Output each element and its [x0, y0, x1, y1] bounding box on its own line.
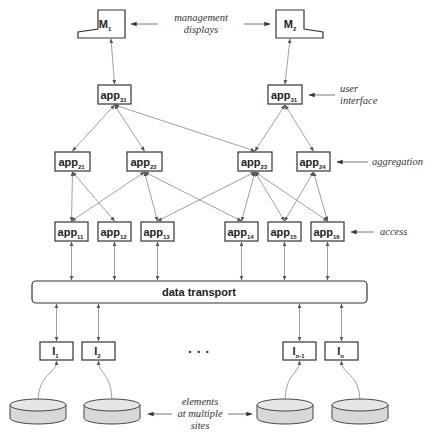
- node-label: app: [313, 226, 333, 238]
- svg-text:displays: displays: [184, 24, 218, 35]
- svg-text:access: access: [380, 226, 407, 237]
- node-i2[interactable]: I2: [82, 342, 115, 360]
- annotation-elements: elements at multiple sites: [148, 396, 252, 431]
- annotation-aggregation: aggregation: [337, 156, 423, 167]
- connection-app21-app11: [72, 172, 73, 221]
- node-subscript: 13: [163, 234, 170, 240]
- data-transport-label: data transport: [162, 286, 236, 298]
- node-label: app: [299, 156, 319, 168]
- node-subscript: 16: [333, 234, 340, 240]
- connection-app23-app15: [255, 172, 285, 221]
- node-in[interactable]: In: [325, 342, 358, 360]
- connection-app24-app15: [285, 172, 314, 221]
- network-element-disc[interactable]: [332, 399, 388, 424]
- node-label: app: [143, 226, 163, 238]
- node-i1[interactable]: I1: [40, 342, 73, 360]
- node-app31a[interactable]: app31: [98, 85, 131, 104]
- architecture-diagram: M1 M2 management displays app31app31app2…: [0, 0, 426, 439]
- connection-m1-app31a: [111, 39, 115, 84]
- node-subscript: 31: [120, 97, 127, 103]
- node-label: app: [241, 156, 261, 168]
- connection-app22-app14: [145, 172, 242, 221]
- network-element-disc[interactable]: [84, 399, 140, 424]
- annotation-management-displays: management displays: [131, 12, 270, 35]
- node-label: app: [270, 226, 290, 238]
- connection-app23-app13: [158, 172, 256, 221]
- svg-text:interface: interface: [340, 95, 378, 106]
- connection-in-element: [342, 361, 361, 403]
- node-app21[interactable]: app21: [55, 152, 90, 171]
- node-app23[interactable]: app23: [238, 152, 272, 171]
- node-subscript: 21: [78, 164, 85, 170]
- node-label: app: [58, 226, 78, 238]
- management-display-m2[interactable]: M2: [276, 10, 323, 38]
- node-subscript: 22: [150, 164, 157, 170]
- connection-i2-element: [99, 361, 113, 403]
- node-label: app: [100, 226, 120, 238]
- connection-in-1-element: [285, 361, 300, 403]
- svg-text:elements: elements: [182, 396, 219, 407]
- node-subscript: 23: [260, 164, 267, 170]
- connection-app31b-app24: [285, 105, 314, 151]
- connection-app22-app13: [145, 172, 158, 221]
- node-subscript: 12: [120, 234, 127, 240]
- annotation-user-interface: user interface: [309, 83, 378, 106]
- ellipsis: · · ·: [188, 344, 210, 360]
- connection-app23-app14: [242, 172, 256, 221]
- node-subscript: 11: [77, 234, 84, 240]
- network-element-disc[interactable]: [10, 399, 66, 424]
- connection-app23-app16: [255, 172, 328, 221]
- svg-text:management: management: [174, 12, 229, 23]
- svg-text:aggregation: aggregation: [372, 156, 423, 167]
- node-app13[interactable]: app13: [141, 222, 174, 241]
- node-app12[interactable]: app12: [98, 222, 131, 241]
- node-label: app: [227, 226, 247, 238]
- connection-app31a-app22: [115, 105, 145, 151]
- annotation-access: access: [351, 226, 407, 237]
- node-app15[interactable]: app15: [268, 222, 301, 241]
- connection-app31b-app23: [255, 105, 285, 151]
- node-label: app: [271, 89, 291, 101]
- node-app22[interactable]: app22: [127, 152, 162, 171]
- node-in-1[interactable]: In-1: [283, 342, 316, 360]
- connection-app31a-app23: [115, 105, 256, 151]
- connection-i1-element: [38, 361, 57, 403]
- connection-app24-app16: [314, 172, 328, 221]
- display-label: M: [99, 18, 108, 30]
- node-subscript: n-1: [296, 353, 306, 359]
- connection-app31a-app21: [73, 105, 115, 151]
- svg-text:at multiple: at multiple: [177, 408, 223, 419]
- node-subscript: 15: [290, 234, 297, 240]
- node-app16[interactable]: app16: [311, 222, 344, 241]
- node-label: app: [130, 156, 150, 168]
- node-label: app: [100, 89, 120, 101]
- node-app31b[interactable]: app31: [268, 85, 302, 104]
- management-display-m1[interactable]: M1: [78, 10, 125, 38]
- data-transport-bus[interactable]: data transport: [32, 281, 367, 303]
- node-app14[interactable]: app14: [225, 222, 258, 241]
- node-app24[interactable]: app24: [297, 152, 330, 171]
- node-label: app: [58, 156, 78, 168]
- node-subscript: n: [340, 353, 344, 359]
- node-subscript: 24: [319, 164, 326, 170]
- node-subscript: 14: [247, 234, 254, 240]
- node-subscript: 31: [290, 97, 297, 103]
- connection-m2-app31b: [285, 39, 290, 84]
- network-element-disc[interactable]: [257, 399, 313, 424]
- svg-text:sites: sites: [191, 420, 210, 431]
- display-label: M: [284, 18, 293, 30]
- node-app11[interactable]: app11: [55, 222, 88, 241]
- svg-text:user: user: [340, 83, 359, 94]
